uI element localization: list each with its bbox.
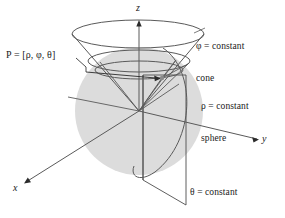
x-axis-arrowhead <box>24 177 31 183</box>
p-label-leader-elbow <box>76 58 86 67</box>
half-plane-annotation: θ = constant vertical half-plane <box>190 166 261 218</box>
point-P-marker <box>160 76 164 80</box>
x-axis-label: x <box>13 182 17 193</box>
sphere-annotation: ρ = constant sphere <box>201 80 249 164</box>
point-p-label: P = [ρ, φ, θ] <box>6 50 55 61</box>
half-plane-annotation-line1: θ = constant <box>190 187 261 198</box>
cone-annotation-line1: φ = constant <box>196 41 244 52</box>
sphere-annotation-line2: sphere <box>201 133 249 144</box>
sphere-annotation-line1: ρ = constant <box>201 101 249 112</box>
z-axis-arrowhead <box>136 20 141 27</box>
spherical-coordinates-figure: z y x P = [ρ, φ, θ] φ = constant cone ρ … <box>0 0 285 218</box>
z-axis-label: z <box>136 2 140 13</box>
y-axis-arrowhead <box>252 137 259 142</box>
y-axis-label: y <box>262 133 266 144</box>
